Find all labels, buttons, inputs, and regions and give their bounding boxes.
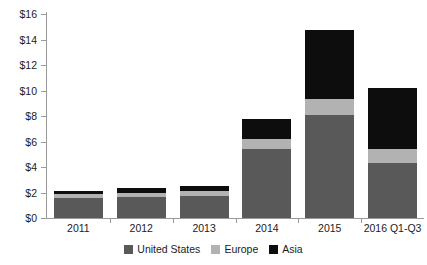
bar-group xyxy=(242,119,291,218)
x-axis-label: 2011 xyxy=(47,223,110,235)
legend-swatch xyxy=(124,245,133,254)
bar-segment-europe xyxy=(242,139,291,149)
legend-item: United States xyxy=(124,244,200,255)
bar-segment-europe xyxy=(54,194,103,198)
bar-segment-asia xyxy=(242,119,291,139)
x-axis-label: 2014 xyxy=(236,223,299,235)
bar-segment-europe xyxy=(368,149,417,163)
bar-segment-united-states xyxy=(117,197,166,218)
bar-segment-asia xyxy=(117,188,166,192)
legend-swatch xyxy=(211,245,220,254)
legend-label: United States xyxy=(137,244,200,255)
x-axis-label: 2012 xyxy=(110,223,173,235)
bar-segment-united-states xyxy=(305,115,354,218)
bar-segment-asia xyxy=(305,30,354,99)
bar-group xyxy=(180,186,229,218)
bar-segment-europe xyxy=(180,191,229,196)
bar-segment-united-states xyxy=(368,163,417,218)
stacked-bar-chart: $0$2$4$6$8$10$12$14$16 20112012201320142… xyxy=(0,0,427,265)
bar-segment-asia xyxy=(54,191,103,194)
x-axis-label: 2015 xyxy=(298,223,361,235)
legend-item: Europe xyxy=(211,244,258,255)
x-axis-label: 2016 Q1-Q3 xyxy=(361,223,424,235)
bar-segment-asia xyxy=(180,186,229,191)
legend-swatch xyxy=(269,245,278,254)
bar-group xyxy=(54,191,103,218)
bar-segment-europe xyxy=(117,193,166,197)
bar-group xyxy=(305,30,354,218)
legend-label: Europe xyxy=(224,244,258,255)
legend-item: Asia xyxy=(269,244,302,255)
legend-label: Asia xyxy=(282,244,302,255)
chart-legend: United StatesEuropeAsia xyxy=(0,244,427,255)
bar-segment-asia xyxy=(368,88,417,149)
bar-segment-europe xyxy=(305,99,354,114)
bar-segment-united-states xyxy=(54,198,103,218)
bar-group xyxy=(368,88,417,218)
bar-segment-united-states xyxy=(180,196,229,218)
x-axis-label: 2013 xyxy=(173,223,236,235)
bar-group xyxy=(117,188,166,218)
bar-segment-united-states xyxy=(242,149,291,218)
